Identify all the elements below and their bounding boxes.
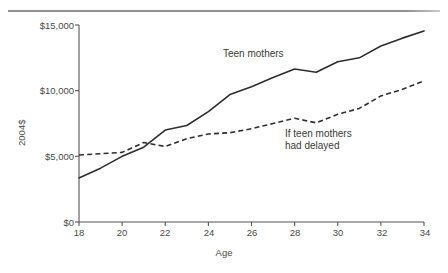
x-tick-label-24: 24 [195, 228, 223, 238]
annotation-if-delayed: If teen mothers had delayed [285, 128, 352, 152]
x-tick-label-20: 20 [108, 228, 136, 238]
y-tick-label-0: $0 [20, 218, 74, 228]
y-tick-label-5000: $5,000 [20, 152, 74, 162]
x-tick-label-22: 22 [151, 228, 179, 238]
x-axis-title: Age [0, 248, 448, 258]
series-line-if-delayed [79, 81, 424, 155]
x-axis-ticks [79, 222, 424, 226]
y-tick-label-15000: $15,000 [20, 21, 74, 31]
x-tick-label-32: 32 [368, 228, 396, 238]
x-tick-label-26: 26 [238, 228, 266, 238]
chart-figure: $15,000 $10,000 $5,000 $0 18 20 22 24 26… [0, 0, 448, 273]
x-tick-label-30: 30 [324, 228, 352, 238]
x-tick-label-34: 34 [411, 228, 439, 238]
y-tick-label-10000: $10,000 [20, 86, 74, 96]
y-axis-ticks [75, 25, 79, 222]
x-tick-label-18: 18 [65, 228, 93, 238]
source-footnote [8, 265, 308, 273]
annotation-teen-mothers: Teen mothers [223, 48, 284, 60]
x-tick-label-28: 28 [281, 228, 309, 238]
y-axis-title: 2004$ [17, 103, 27, 163]
